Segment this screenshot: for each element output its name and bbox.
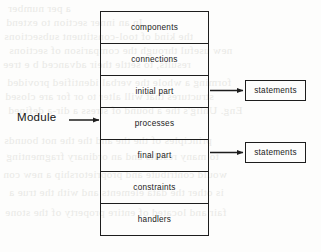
module-row: components — [101, 12, 208, 44]
module-row: connections — [101, 44, 208, 76]
statements-box-label: statements — [254, 86, 297, 95]
module-row-label: components — [131, 23, 178, 32]
statements-box-label: statements — [254, 148, 297, 157]
module-structure-diagram: Module components connections initial pa… — [0, 0, 321, 252]
module-row-label: initial part — [135, 87, 173, 96]
module-row-label: constraints — [133, 183, 175, 192]
module-row-label: final part — [138, 151, 172, 160]
module-row-label: connections — [131, 55, 177, 64]
module-row-label: processes — [135, 119, 175, 128]
module-row: final part — [101, 140, 208, 172]
statements-box-initial: statements — [245, 80, 306, 101]
module-row: processes — [101, 108, 208, 140]
module-row-label: handlers — [138, 215, 171, 224]
module-row: handlers — [101, 204, 208, 235]
module-box: components connections initial part proc… — [100, 11, 209, 236]
module-caption-label: Module — [17, 111, 57, 123]
statements-box-final: statements — [245, 142, 306, 163]
module-row: constraints — [101, 172, 208, 204]
module-row: initial part — [101, 76, 208, 108]
